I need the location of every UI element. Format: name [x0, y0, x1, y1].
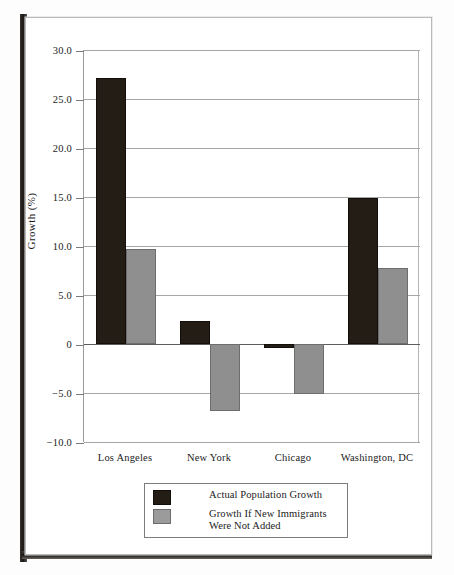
bar-group: [336, 50, 420, 442]
y-axis-tick-label: 10.0: [53, 241, 72, 252]
y-axis-tick-label: 30.0: [53, 45, 72, 56]
bar: [348, 198, 378, 344]
y-axis-tick: [76, 51, 84, 52]
y-axis-tick-label: 0: [67, 339, 72, 350]
legend-label-series-1: Growth If New Immigrants Were Not Added: [171, 508, 341, 532]
x-axis-label: Los Angeles: [83, 452, 167, 463]
bar-group: [252, 50, 336, 442]
bar: [378, 268, 408, 344]
y-axis-tick-label: −10.0: [47, 437, 72, 448]
bar: [126, 249, 156, 344]
bar: [294, 344, 324, 394]
legend-swatch-series-0: [153, 490, 171, 505]
x-axis-label: Washington, DC: [335, 452, 419, 463]
scanned-page: Growth (%) 30.025.020.015.010.05.00−5.0−…: [0, 0, 454, 575]
y-axis-tick-label: 15.0: [53, 192, 72, 203]
y-axis-tick: [76, 247, 84, 248]
legend: Actual Population Growth Growth If New I…: [144, 483, 348, 538]
bar: [264, 344, 294, 348]
y-axis-tick: [76, 443, 84, 444]
legend-label-series-0: Actual Population Growth: [171, 489, 341, 501]
y-axis-tick: [76, 394, 84, 395]
bar: [210, 344, 240, 411]
gridline-neg10: [84, 442, 420, 443]
x-axis-label: New York: [167, 452, 251, 463]
x-axis-label: Chicago: [251, 452, 335, 463]
y-axis-tick: [76, 100, 84, 101]
y-axis-tick: [76, 345, 84, 346]
y-axis-tick: [76, 198, 84, 199]
y-axis-tick-label: 5.0: [58, 290, 72, 301]
bar-chart: Growth (%) 30.025.020.015.010.05.00−5.0−…: [0, 0, 454, 575]
legend-label-series-1-line-2: Were Not Added: [209, 520, 281, 531]
bar-group: [84, 50, 168, 442]
legend-swatch-series-1: [153, 509, 171, 524]
legend-item-growth-without-immigrants: Growth If New Immigrants Were Not Added: [153, 508, 341, 532]
bar-series-container: [84, 50, 420, 442]
y-axis-tick-label: 20.0: [53, 143, 72, 154]
bar: [180, 321, 210, 344]
y-axis-tick-label: −5.0: [52, 388, 72, 399]
legend-item-actual-population-growth: Actual Population Growth: [153, 489, 341, 505]
y-axis-tick: [76, 149, 84, 150]
bar: [96, 78, 126, 344]
legend-label-series-1-line-1: Growth If New Immigrants: [209, 508, 327, 519]
y-axis-title: Growth (%): [25, 166, 37, 276]
bar-group: [168, 50, 252, 442]
y-axis-tick: [76, 296, 84, 297]
plot-area: 30.025.020.015.010.05.00−5.0−10.0: [83, 50, 419, 442]
y-axis-tick-label: 25.0: [53, 94, 72, 105]
